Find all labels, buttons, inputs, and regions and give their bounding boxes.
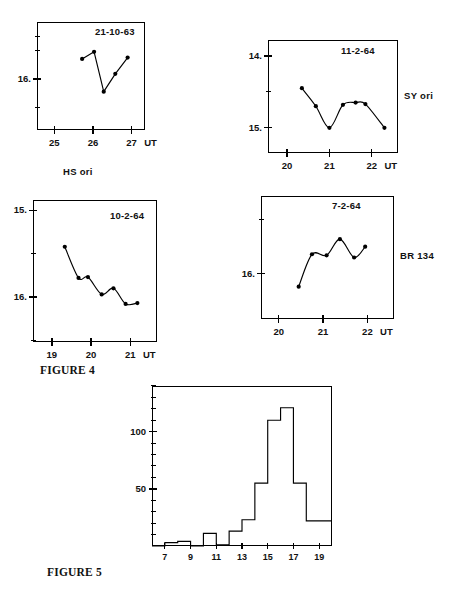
panel-star-label: SY ori	[404, 90, 433, 101]
lightcurve-plot-10-2-64	[33, 200, 157, 342]
x-axis-tick	[329, 149, 330, 157]
x-axis-tick-label: 9	[179, 552, 203, 562]
lightcurve-panel-10-2-64	[33, 200, 157, 342]
x-axis-tick-label: 20	[265, 326, 293, 337]
y-axis-minor-tick	[151, 385, 156, 386]
y-axis-tick	[29, 210, 37, 211]
y-axis-tick	[29, 296, 37, 297]
y-axis-tick-label: 16.	[0, 291, 27, 302]
y-axis-minor-tick	[151, 443, 156, 444]
x-axis-tick	[190, 543, 191, 549]
y-axis-tick	[264, 127, 272, 128]
x-axis-tick-label: 13	[230, 552, 254, 562]
y-axis-minor-tick	[151, 408, 156, 409]
x-axis-tick	[241, 543, 242, 549]
x-axis-tick-label: 21	[309, 326, 337, 337]
x-axis-tick-label: 17	[281, 552, 305, 562]
x-axis-tick	[278, 315, 279, 323]
x-axis-tick	[371, 149, 372, 157]
x-axis-unit-label: UT	[140, 137, 162, 148]
panel-date-label: 21-10-63	[95, 26, 135, 37]
x-axis-tick	[92, 126, 93, 134]
y-axis-minor-tick	[151, 465, 156, 466]
y-axis-tick-label: 16.	[227, 268, 255, 279]
y-axis-tick	[149, 431, 157, 432]
y-axis-tick-label: 15.	[234, 122, 262, 133]
y-axis-minor-tick	[35, 50, 40, 51]
x-axis-tick-label: 20	[273, 160, 301, 171]
lightcurve-plot-br-134	[261, 196, 394, 319]
x-axis-tick	[319, 543, 320, 549]
y-axis-minor-tick	[151, 511, 156, 512]
panel-star-label: HS ori	[63, 166, 93, 177]
y-axis-minor-tick	[31, 253, 36, 254]
y-axis-tick-label: 15.	[0, 204, 27, 215]
y-axis-tick	[264, 55, 272, 56]
y-axis-tick-label: 50	[118, 483, 146, 494]
x-axis-tick-label: 11	[204, 552, 228, 562]
y-axis-minor-tick	[31, 340, 36, 341]
x-axis-tick	[293, 543, 294, 549]
x-axis-tick	[216, 543, 217, 549]
y-axis-tick	[257, 273, 265, 274]
x-axis-tick-label: 19	[307, 552, 331, 562]
x-axis-tick	[51, 338, 52, 346]
panel-date-label: 10-2-64	[110, 210, 144, 221]
x-axis-tick	[130, 338, 131, 346]
x-axis-tick-label: 19	[38, 349, 66, 360]
figure-page: 21-10-63 HS ori 16.252627UT 11-2-64 SY o…	[0, 0, 449, 592]
x-axis-tick	[164, 543, 165, 549]
x-axis-tick-label: 26	[79, 137, 107, 148]
x-axis-tick-label: 20	[77, 349, 105, 360]
x-axis-tick	[131, 126, 132, 134]
figure-5-caption: FIGURE 5	[47, 566, 102, 578]
lightcurve-plot-hs-ori	[37, 22, 145, 130]
y-axis-minor-tick	[151, 477, 156, 478]
x-axis-tick	[322, 315, 323, 323]
x-axis-tick	[267, 543, 268, 549]
x-axis-tick-label: 7	[153, 552, 177, 562]
x-axis-tick	[286, 149, 287, 157]
x-axis-tick-label: 21	[315, 160, 343, 171]
y-axis-minor-tick	[151, 397, 156, 398]
lightcurve-panel-sy-ori	[268, 40, 398, 153]
y-axis-tick	[149, 488, 157, 489]
y-axis-minor-tick	[266, 91, 271, 92]
y-axis-minor-tick	[151, 534, 156, 535]
lightcurve-plot-sy-ori	[268, 40, 398, 153]
panel-date-label: 11-2-64	[341, 45, 375, 56]
y-axis-minor-tick	[151, 454, 156, 455]
x-axis-tick	[54, 126, 55, 134]
x-axis-tick	[367, 315, 368, 323]
x-axis-tick-label: 15	[256, 552, 280, 562]
y-axis-minor-tick	[151, 420, 156, 421]
y-axis-tick-label: 16.	[3, 73, 31, 84]
x-axis-tick	[90, 338, 91, 346]
histogram-panel	[152, 386, 332, 546]
histogram-plot	[152, 386, 332, 546]
x-axis-unit-label: UT	[380, 160, 402, 171]
y-axis-minor-tick	[35, 78, 40, 79]
y-axis-minor-tick	[35, 107, 40, 108]
y-axis-minor-tick	[259, 219, 264, 220]
x-axis-tick-label: 25	[40, 137, 68, 148]
lightcurve-panel-br-134	[261, 196, 394, 319]
panel-star-label: BR 134	[400, 250, 434, 261]
y-axis-tick-label: 14.	[234, 50, 262, 61]
y-axis-minor-tick	[151, 500, 156, 501]
y-axis-minor-tick	[35, 36, 40, 37]
x-axis-unit-label: UT	[138, 349, 160, 360]
panel-date-label: 7-2-64	[332, 200, 361, 211]
figure-4-caption: FIGURE 4	[40, 364, 95, 376]
y-axis-tick-label: 100	[118, 426, 146, 437]
y-axis-minor-tick	[151, 523, 156, 524]
lightcurve-panel-hs-ori	[37, 22, 145, 130]
x-axis-unit-label: UT	[375, 326, 397, 337]
